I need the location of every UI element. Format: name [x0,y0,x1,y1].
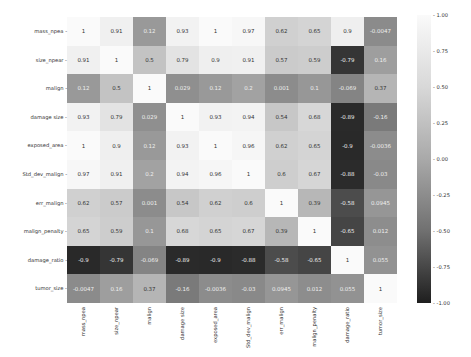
heatmap-cell: 1 [199,131,232,160]
heatmap-cell: 0.93 [199,103,232,132]
heatmap-cell: 0.62 [265,131,298,160]
heatmap-cell: -0.79 [100,246,133,275]
heatmap-cell: 0.91 [232,46,265,75]
heatmap-cell: 0.67 [298,160,331,189]
colorbar-tick: - -0.50 [433,228,450,234]
y-tick-label: damage_ratio - [28,257,67,263]
heatmap-cell: 0.9 [100,131,133,160]
heatmap-cell: 0.62 [199,189,232,218]
heatmap-cell: -0.58 [331,189,364,218]
heatmap-cell: 0.54 [166,189,199,218]
heatmap-cell: -0.9 [331,131,364,160]
heatmap-cell: 0.91 [67,46,100,75]
y-tick-label: malign_penalty - [24,228,67,234]
heatmap-cell: 0.94 [232,103,265,132]
heatmap-cell: -0.069 [331,74,364,103]
heatmap-cell: -0.16 [166,274,199,303]
y-tick-label: mass_npea - [34,28,67,34]
heatmap-cell: -0.9 [67,246,100,275]
heatmap-grid: 10.910.120.9310.970.620.650.9-0.00470.91… [67,17,397,303]
x-tick-label: malign_penalty [311,307,317,347]
heatmap-cell: -0.0036 [199,274,232,303]
x-tick-label: exposed_area [212,307,218,343]
heatmap-cell: 0.16 [364,46,397,75]
heatmap-cell: 0.39 [298,189,331,218]
heatmap-cell: 1 [133,74,166,103]
heatmap-cell: 0.9 [199,46,232,75]
colorbar-tick: - 1.00 [433,12,448,18]
heatmap-cell: 1 [199,17,232,46]
heatmap-cell: 1 [100,46,133,75]
heatmap-cell: 0.37 [133,274,166,303]
heatmap-cell: 0.96 [232,131,265,160]
heatmap-cell: -0.03 [364,160,397,189]
heatmap-cell: 0.12 [133,131,166,160]
heatmap-cell: 1 [166,103,199,132]
heatmap-cell: 0.68 [298,103,331,132]
heatmap-cell: 0.59 [100,217,133,246]
heatmap-cell: 0.0945 [265,274,298,303]
colorbar-tick: - 0.00 [433,156,448,162]
y-tick-label: tumor_size - [35,285,67,291]
heatmap-cell: 0.12 [199,74,232,103]
heatmap-cell: 0.57 [100,189,133,218]
heatmap-cell: 0.012 [298,274,331,303]
heatmap-cell: 1 [232,160,265,189]
heatmap-cell: 0.62 [265,17,298,46]
heatmap-cell: 0.65 [298,131,331,160]
heatmap-cell: 0.91 [100,160,133,189]
heatmap-cell: 0.79 [166,46,199,75]
colorbar-tick: - 0.25 [433,120,448,126]
colorbar-tick: - -0.75 [433,264,450,270]
heatmap-cell: 0.055 [364,246,397,275]
y-tick-label: damage size - [31,114,67,120]
heatmap-cell: 0.6 [232,189,265,218]
x-tick-label: damage_ratio [344,307,350,343]
heatmap-cell: 1 [298,217,331,246]
heatmap-cell: 0.93 [166,17,199,46]
colorbar-tick: - -0.25 [433,192,450,198]
heatmap-cell: 1 [67,17,100,46]
heatmap-cell: 0.001 [133,189,166,218]
y-tick-label: malign - [46,85,67,91]
x-tick-label: Std_dev_malign [245,307,251,348]
heatmap-cell: 0.59 [298,46,331,75]
heatmap-cell: 0.67 [232,217,265,246]
heatmap-cell: 0.79 [100,103,133,132]
heatmap-cell: -0.58 [265,246,298,275]
x-tick-label: mass_npea [80,307,86,336]
heatmap-cell: 0.97 [67,160,100,189]
heatmap-cell: 0.6 [265,160,298,189]
heatmap-cell: -0.89 [166,246,199,275]
colorbar-tick: - 0.50 [433,84,448,90]
heatmap-cell: 0.57 [265,46,298,75]
heatmap-cell: -0.79 [331,46,364,75]
heatmap-cell: 0.12 [67,74,100,103]
heatmap-cell: -0.0036 [364,131,397,160]
heatmap-cell: 0.0945 [364,189,397,218]
heatmap-cell: 0.2 [232,74,265,103]
heatmap-cell: -0.88 [232,246,265,275]
heatmap-cell: 1 [265,189,298,218]
colorbar-tick: - -1.00 [433,300,450,306]
colorbar-tick: - 0.75 [433,48,448,54]
heatmap-cell: 0.65 [298,17,331,46]
heatmap-cell: 0.93 [67,103,100,132]
heatmap-cell: -0.0047 [364,17,397,46]
heatmap-cell: -0.16 [364,103,397,132]
heatmap-cell: 0.001 [265,74,298,103]
x-tick-label: malign [146,307,152,325]
heatmap-cell: 0.1 [298,74,331,103]
heatmap-cell: 0.91 [100,17,133,46]
heatmap-cell: 0.37 [364,74,397,103]
heatmap-cell: 0.96 [199,160,232,189]
heatmap-cell: 1 [331,246,364,275]
y-tick-label: exposed_area - [27,142,67,148]
heatmap-cell: 0.93 [166,131,199,160]
heatmap-cell: 0.62 [67,189,100,218]
heatmap-cell: 1 [67,131,100,160]
heatmap-cell: -0.069 [133,246,166,275]
heatmap-cell: 0.65 [67,217,100,246]
heatmap-cell: 0.055 [331,274,364,303]
y-tick-label: Std_dev_malign - [22,171,67,177]
